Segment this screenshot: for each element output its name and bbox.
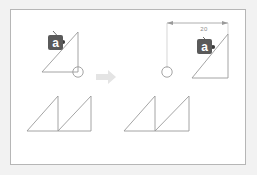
dimension-arrowhead-right (222, 21, 228, 25)
after-reference-circle (162, 67, 172, 77)
after-lower-sawtooth (124, 96, 189, 131)
after-label-text: a (201, 41, 208, 53)
before-lower-sawtooth (27, 96, 91, 131)
before-sawtooth-ramp-1 (27, 96, 58, 131)
after-label-badge: a (197, 39, 212, 54)
before-sawtooth-ramp-2 (58, 96, 91, 131)
before-label-badge: a (48, 35, 63, 50)
figure-panel: a a 20 (10, 9, 246, 165)
figure-canvas: a a 20 (0, 0, 257, 175)
after-sawtooth-ramp-2 (155, 96, 189, 131)
figure-drawing (11, 10, 245, 164)
right-arrow-icon (96, 70, 116, 84)
dimension-arrowhead-left (167, 21, 173, 25)
right-arrow-shape (96, 70, 116, 84)
after-sawtooth-ramp-1 (124, 96, 155, 131)
before-label-text: a (52, 37, 59, 49)
dimension-value-label: 20 (192, 26, 216, 32)
